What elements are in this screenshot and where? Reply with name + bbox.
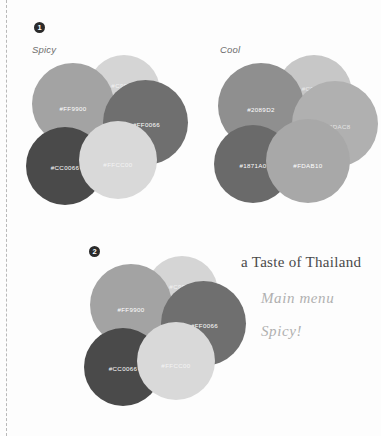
swatch-hex-label: #FFCC00	[103, 161, 132, 168]
swatch-hex-label: #FF9900	[117, 306, 144, 313]
palette-spicy-repeat: #C9FBE6 #FF9900 #FF0066 #CC0066 #FFCC00	[84, 256, 244, 401]
color-swatch[interactable]: #FFCC00	[137, 322, 215, 400]
step-badge-1: 1	[34, 22, 45, 33]
palette-cool: #C9FFF2 #2089D2 #23DAC8 #1871A0 #FDAB10	[214, 55, 374, 200]
swatch-hex-label: #FDAB10	[293, 162, 322, 169]
swatch-hex-label: #2089D2	[247, 106, 275, 113]
color-swatch[interactable]: #FFCC00	[79, 121, 157, 199]
annotation-heading: a Taste of Thailand	[241, 254, 361, 271]
swatch-hex-label: #CC0066	[51, 164, 80, 171]
palette-title-spicy: Spicy	[32, 44, 56, 55]
annotation-line-one: Main menu	[261, 290, 334, 307]
swatch-hex-label: #CC0066	[109, 365, 138, 372]
document-page: 1 Spicy #C9FBE6 #FF9900 #FF0066 #CC0066 …	[0, 0, 381, 436]
palette-title-cool: Cool	[220, 44, 240, 55]
swatch-hex-label: #FFCC00	[161, 362, 190, 369]
palette-spicy: #C9FBE6 #FF9900 #FF0066 #CC0066 #FFCC00	[26, 55, 186, 200]
color-swatch[interactable]: #FDAB10	[266, 119, 350, 203]
annotation-line-two: Spicy!	[261, 323, 302, 340]
margin-dashed-rule	[6, 0, 7, 436]
swatch-hex-label: #FF9900	[59, 105, 86, 112]
swatch-hex-label: #1871A0	[239, 162, 266, 169]
